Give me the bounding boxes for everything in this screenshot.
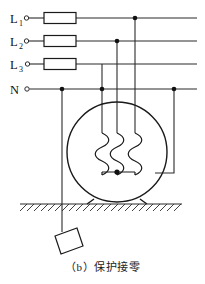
phase-subscript-L2: 2	[19, 42, 23, 51]
bond-wire-N-to-frame	[155, 89, 174, 173]
motor-foot-left	[87, 199, 94, 204]
dot-star-point	[114, 169, 119, 174]
figure-protective-neutral-earthing: L 1 L 2 L 3 N	[0, 0, 205, 284]
phase-label-L3: L	[10, 58, 18, 72]
fuse-L3	[44, 59, 76, 70]
terminal-ring-L1	[24, 16, 28, 20]
dot-N-ground-drop	[60, 87, 65, 92]
phase-label-group-L1: L 1	[10, 12, 29, 28]
fuse-L2	[44, 36, 76, 47]
phase-label-L1: L	[10, 12, 18, 26]
terminal-ring-L3	[25, 62, 29, 66]
fuse-L1	[44, 13, 76, 24]
winding-coil-2	[110, 133, 124, 175]
figure-caption: （b）保护接零	[0, 258, 205, 274]
dot-L2-drop	[115, 39, 120, 44]
phase-label-group-N: N	[10, 83, 29, 97]
ground-hatch-group	[20, 204, 181, 211]
dot-L1-drop	[133, 16, 138, 21]
dot-N-star-drop	[100, 87, 105, 92]
schematic-canvas: L 1 L 2 L 3 N	[0, 0, 205, 284]
earth-ground-symbol	[20, 204, 182, 211]
phase-subscript-L1: 1	[19, 19, 23, 28]
terminal-ring-L2	[24, 39, 28, 43]
dot-N-frame-bond	[172, 87, 177, 92]
phase-label-L2: L	[10, 35, 18, 49]
motor-windings-group	[95, 133, 142, 175]
motor-foot-right	[140, 199, 147, 204]
winding-coil-3	[128, 133, 142, 175]
terminal-ring-N	[25, 87, 29, 91]
phase-label-group-L2: L 2	[10, 35, 29, 51]
phase-subscript-L3: 3	[19, 65, 23, 74]
grounding-plate	[55, 228, 83, 254]
phase-label-N: N	[10, 83, 19, 97]
phase-label-group-L3: L 3	[10, 58, 30, 74]
winding-coil-1	[95, 133, 109, 175]
